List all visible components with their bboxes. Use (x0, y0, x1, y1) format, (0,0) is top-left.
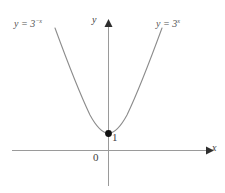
curve-label-right: y = 3x (156, 19, 180, 29)
curve-y-equals-3-to-the-x (109, 28, 163, 134)
y-intercept-label: 1 (112, 132, 118, 143)
y-axis-label: y (92, 15, 96, 25)
curve-label-right-base: y = 3 (156, 18, 177, 29)
curve-label-left: y = 3−x (14, 19, 42, 29)
curve-label-left-base: y = 3 (14, 18, 35, 29)
origin-label: 0 (93, 152, 99, 163)
curve-y-equals-3-to-the-minus-x (55, 28, 109, 134)
curve-label-left-exponent: −x (35, 17, 42, 24)
exponential-graph-figure: y = 3−x y = 3x y x 1 0 (0, 0, 225, 193)
curve-label-right-exponent: x (177, 17, 180, 24)
x-axis-label: x (212, 143, 216, 153)
y-axis-arrowhead (105, 19, 113, 27)
y-intercept-point (105, 130, 112, 137)
